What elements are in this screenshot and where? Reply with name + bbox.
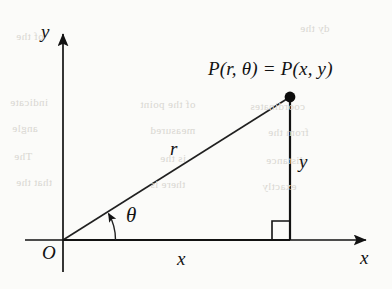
origin-label: O: [42, 243, 56, 262]
diagram-canvas: [0, 0, 392, 289]
angle-arc-marker: [109, 214, 116, 241]
angle-theta-label: θ: [126, 205, 136, 226]
x-axis-label: x: [360, 248, 368, 267]
radius-label: r: [170, 139, 177, 158]
point-p-label: P(r, θ) = P(x, y): [208, 59, 333, 78]
radius-segment: [63, 97, 290, 240]
vertical-leg-label: y: [299, 152, 307, 171]
polar-coordinate-diagram: of thedy theindicateangleThethat theof t…: [0, 0, 392, 289]
horizontal-leg-label: x: [177, 249, 185, 268]
point-p-dot: [285, 92, 296, 103]
y-axis-label: y: [41, 22, 49, 41]
right-angle-marker: [272, 221, 290, 239]
